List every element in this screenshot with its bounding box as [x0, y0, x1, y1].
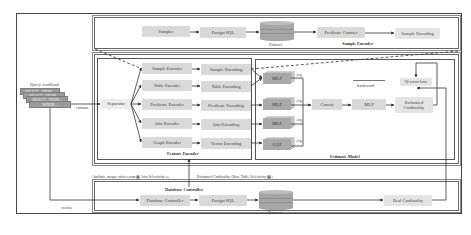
- connector-lines: [0, 0, 471, 235]
